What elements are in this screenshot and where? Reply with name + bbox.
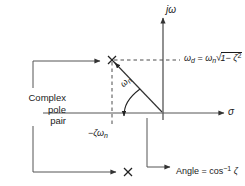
complex-pole-pair-line-2: pole [2, 104, 66, 116]
complex-pole-pair-line-3: pair [2, 115, 66, 127]
angle-formula-label: Angle = cos−1 ζ [176, 163, 238, 177]
radical-exponent: 2 [238, 52, 242, 59]
real-part-minus-zeta: −ζ [88, 128, 97, 138]
sigma-axis-label: σ [228, 106, 234, 117]
omega-d-equals: = [195, 53, 205, 63]
angle-zeta: ζ [231, 166, 238, 176]
pole-zero-diagram: Complex pole pair jω σ ωd = ωn√1− ζ2 ωn … [0, 0, 245, 186]
real-part-label: −ζωn [88, 128, 108, 141]
leader-upper-pole [33, 61, 100, 88]
angle-text: Angle = cos [176, 166, 223, 176]
complex-pole-pair-label: Complex pole pair [2, 92, 66, 127]
angle-arc [124, 89, 140, 116]
lower-pole-marker [124, 168, 132, 176]
omega-n-vector [115, 63, 162, 112]
jomega-axis-label: jω [166, 4, 176, 15]
radical-expression: 1− ζ [221, 53, 238, 63]
real-part-subscript: n [104, 132, 108, 139]
omega-d-formula-label: ωd = ωn√1− ζ2 [184, 50, 242, 66]
leader-angle-callout [147, 118, 170, 167]
omega-d-symbol: ω [184, 53, 191, 63]
complex-pole-pair-line-1: Complex [2, 92, 66, 104]
real-part-omega: ω [97, 128, 104, 138]
radical-body: 1− ζ2 [221, 52, 243, 63]
